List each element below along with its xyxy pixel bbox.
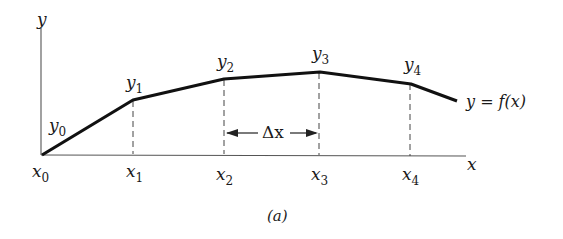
y2-label: y2 <box>216 51 234 75</box>
curve-label: y = f(x) <box>465 92 526 111</box>
figure-caption: (a) <box>267 207 288 225</box>
x3-label: x3 <box>311 164 328 188</box>
y4-label: y4 <box>403 54 422 78</box>
x-axis-label: x <box>467 154 477 174</box>
arrow-right-icon <box>306 129 318 137</box>
piecewise-linear-diagram: Δx y x y0 y1 y2 y3 y4 y = f(x) x0 x1 x2 … <box>0 0 563 239</box>
x4-label: x4 <box>402 164 420 188</box>
y1-label: y1 <box>125 72 143 96</box>
y0-label: y0 <box>48 115 66 139</box>
y3-label: y3 <box>311 43 329 67</box>
delta-x-label: Δx <box>262 122 284 142</box>
x2-label: x2 <box>216 164 233 188</box>
arrow-left-icon <box>226 129 238 137</box>
piecewise-curve <box>42 72 457 155</box>
x-axis <box>41 155 466 156</box>
x1-label: x1 <box>126 161 143 185</box>
x0-label: x0 <box>32 161 49 185</box>
y-axis-label: y <box>36 9 47 29</box>
